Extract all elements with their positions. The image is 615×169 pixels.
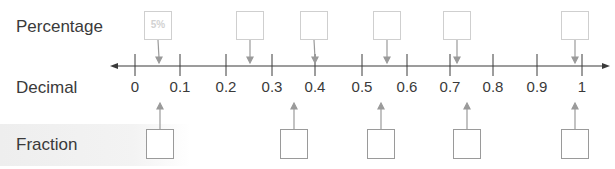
percentage-input-box[interactable] bbox=[300, 11, 328, 40]
down-arrow-icon bbox=[572, 57, 578, 63]
tick-label: 0.5 bbox=[352, 78, 373, 95]
down-arrow-icon bbox=[312, 57, 318, 63]
down-arrow-icon bbox=[156, 57, 162, 63]
up-arrow-icon bbox=[464, 103, 470, 109]
tick-label: 0.6 bbox=[397, 78, 418, 95]
fraction-input-box[interactable] bbox=[280, 129, 308, 159]
tick-label: 0.8 bbox=[483, 78, 504, 95]
percentage-input-box[interactable] bbox=[373, 11, 401, 40]
percentage-input-box[interactable]: 5% bbox=[144, 11, 172, 40]
percentage-input-box[interactable] bbox=[561, 11, 589, 40]
down-arrow-icon bbox=[384, 57, 390, 63]
fraction-input-box[interactable] bbox=[453, 129, 481, 159]
tick-label: 0.2 bbox=[216, 78, 237, 95]
fraction-input-box[interactable] bbox=[367, 129, 395, 159]
left-arrowhead-icon bbox=[110, 63, 118, 69]
percentage-input-box[interactable] bbox=[443, 11, 471, 40]
percentage-input-box[interactable] bbox=[236, 11, 264, 40]
tick-label: 0 bbox=[131, 78, 139, 95]
up-arrow-icon bbox=[378, 103, 384, 109]
up-arrow-icon bbox=[572, 103, 578, 109]
tick-label: 0.3 bbox=[262, 78, 283, 95]
down-arrow-icon bbox=[247, 57, 253, 63]
tick-label: 1 bbox=[578, 78, 586, 95]
tick-label: 0.9 bbox=[527, 78, 548, 95]
fraction-input-box[interactable] bbox=[146, 129, 174, 159]
up-arrow-icon bbox=[157, 103, 163, 109]
tick-label: 0.1 bbox=[170, 78, 191, 95]
right-arrowhead-icon bbox=[602, 63, 610, 69]
up-arrow-icon bbox=[291, 103, 297, 109]
tick-label: 0.4 bbox=[305, 78, 326, 95]
tick-label: 0.7 bbox=[440, 78, 461, 95]
fraction-input-box[interactable] bbox=[561, 129, 589, 159]
down-arrow-icon bbox=[454, 57, 460, 63]
